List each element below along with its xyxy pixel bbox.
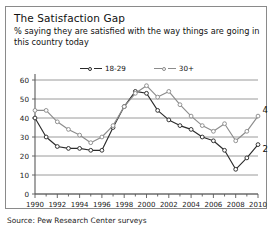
y-axis-tick-label: 0 bbox=[24, 190, 29, 199]
data-value-label: 41 bbox=[263, 105, 269, 115]
data-point-marker bbox=[189, 114, 193, 118]
data-point-marker bbox=[234, 167, 238, 171]
data-point-marker bbox=[122, 105, 126, 109]
y-axis-tick-label: 10 bbox=[20, 171, 30, 180]
x-axis-tick-label: 1996 bbox=[93, 201, 111, 209]
data-point-marker bbox=[178, 124, 182, 128]
data-point-marker bbox=[223, 122, 227, 126]
data-point-marker bbox=[44, 135, 48, 139]
satisfaction-gap-figure: The Satisfaction Gap % saying they are s… bbox=[0, 0, 273, 233]
data-point-marker bbox=[212, 139, 216, 143]
data-point-marker bbox=[55, 145, 59, 149]
line-chart-plot: 0102030405060 19901992199419961998200020… bbox=[6, 7, 268, 210]
data-point-marker bbox=[78, 147, 82, 151]
data-point-marker bbox=[256, 143, 260, 147]
data-point-marker bbox=[234, 139, 238, 143]
source-note: Source: Pew Research Center surveys bbox=[7, 216, 147, 225]
data-point-marker bbox=[167, 90, 171, 94]
data-point-marker bbox=[223, 148, 227, 152]
y-axis-tick-label: 60 bbox=[20, 76, 30, 85]
y-axis: 0102030405060 bbox=[20, 74, 35, 199]
data-point-marker bbox=[100, 148, 104, 152]
data-point-marker bbox=[212, 129, 216, 133]
data-point-marker bbox=[100, 135, 104, 139]
data-point-marker bbox=[33, 116, 37, 120]
data-point-marker bbox=[111, 124, 115, 128]
y-axis-tick-label: 30 bbox=[20, 133, 30, 142]
data-point-marker bbox=[55, 120, 59, 124]
data-point-marker bbox=[44, 109, 48, 113]
data-point-marker bbox=[67, 128, 71, 132]
x-axis-tick-label: 2008 bbox=[227, 201, 245, 209]
x-axis-tick-label: 1992 bbox=[48, 201, 66, 209]
y-axis-tick-label: 20 bbox=[20, 152, 30, 161]
x-axis-tick-label: 2010 bbox=[249, 201, 267, 209]
data-point-marker bbox=[178, 103, 182, 107]
data-point-marker bbox=[189, 128, 193, 132]
data-point-marker bbox=[78, 133, 82, 137]
data-value-label: 26 bbox=[263, 144, 269, 154]
data-point-marker bbox=[256, 114, 260, 118]
data-point-marker bbox=[156, 95, 160, 99]
data-point-marker bbox=[33, 109, 37, 113]
data-point-marker bbox=[145, 91, 149, 95]
data-point-marker bbox=[67, 147, 71, 151]
x-axis-tick-label: 1994 bbox=[71, 201, 89, 209]
x-axis: 1990199219941996199820002002200420062008… bbox=[26, 194, 267, 209]
data-point-marker bbox=[245, 156, 249, 160]
data-point-marker bbox=[89, 141, 93, 145]
x-axis-tick-label: 2000 bbox=[138, 201, 156, 209]
data-point-marker bbox=[156, 109, 160, 113]
y-axis-tick-label: 50 bbox=[20, 95, 30, 104]
data-point-marker bbox=[89, 148, 93, 152]
y-axis-tick-label: 40 bbox=[20, 114, 30, 123]
x-axis-tick-label: 1998 bbox=[115, 201, 133, 209]
chart-annotations: 4126 bbox=[263, 105, 269, 155]
chart-series-layer bbox=[33, 84, 260, 171]
x-axis-tick-label: 2002 bbox=[160, 201, 178, 209]
data-point-marker bbox=[133, 91, 137, 95]
data-point-marker bbox=[200, 124, 204, 128]
data-point-marker bbox=[145, 84, 149, 88]
data-point-marker bbox=[200, 135, 204, 139]
x-axis-tick-label: 1990 bbox=[26, 201, 44, 209]
data-point-marker bbox=[167, 118, 171, 122]
chart-gridlines bbox=[35, 80, 258, 194]
data-point-marker bbox=[245, 129, 249, 133]
x-axis-tick-label: 2004 bbox=[182, 201, 200, 209]
chart-card: The Satisfaction Gap % saying they are s… bbox=[5, 6, 267, 209]
x-axis-tick-label: 2006 bbox=[204, 201, 222, 209]
